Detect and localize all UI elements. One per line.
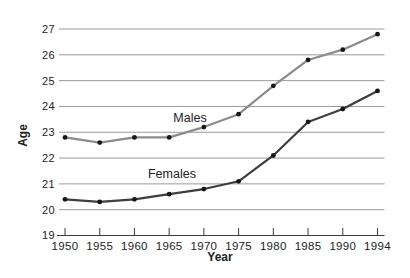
x-axis-title: Year: [207, 250, 233, 264]
females-point-1994: [375, 89, 380, 94]
males-point-1994: [375, 32, 380, 37]
males-point-1950: [63, 135, 68, 140]
y-tick-label-24: 24: [42, 100, 55, 112]
series-label-males: Males: [173, 111, 206, 125]
males-point-1975: [236, 112, 241, 117]
females-point-1965: [167, 192, 172, 197]
males-point-1955: [97, 140, 102, 145]
x-tick-label-1985: 1985: [295, 240, 322, 252]
y-tick-label-25: 25: [42, 75, 55, 87]
y-axis-title: Age: [16, 124, 30, 147]
females-point-1955: [97, 200, 102, 205]
males-point-1985: [306, 58, 311, 63]
x-axis: 1950195519601965197019751980198519901994: [52, 228, 392, 252]
y-tick-label-27: 27: [42, 23, 55, 35]
males-point-1960: [132, 135, 137, 140]
females-point-1985: [306, 120, 311, 125]
series-label-females: Females: [148, 167, 196, 181]
x-tick-label-1960: 1960: [121, 240, 148, 252]
males-point-1980: [271, 83, 276, 88]
females-point-1960: [132, 197, 137, 202]
x-tick-label-1990: 1990: [329, 240, 356, 252]
females-point-1990: [340, 107, 345, 112]
females-point-1975: [236, 179, 241, 184]
y-tick-label-22: 22: [42, 152, 55, 164]
grid-layer: 192021222324252627: [42, 23, 385, 242]
x-tick-label-1994: 1994: [364, 240, 391, 252]
females-point-1980: [271, 153, 276, 158]
males-point-1965: [167, 135, 172, 140]
males-line: [65, 34, 378, 142]
x-tick-label-1950: 1950: [52, 240, 79, 252]
females-point-1970: [201, 187, 206, 192]
x-tick-label-1955: 1955: [86, 240, 113, 252]
males-point-1990: [340, 47, 345, 52]
females-point-1950: [63, 197, 68, 202]
chart-canvas: 192021222324252627 195019551960196519701…: [0, 0, 410, 278]
age-by-year-line-chart: 192021222324252627 195019551960196519701…: [0, 0, 410, 278]
y-tick-label-21: 21: [42, 178, 55, 190]
x-tick-label-1965: 1965: [156, 240, 183, 252]
females-line: [65, 91, 378, 202]
x-tick-label-1980: 1980: [260, 240, 287, 252]
y-tick-label-20: 20: [42, 204, 55, 216]
males-point-1970: [201, 125, 206, 130]
series-layer: [63, 32, 380, 205]
y-tick-label-23: 23: [42, 126, 55, 138]
y-tick-label-26: 26: [42, 49, 55, 61]
